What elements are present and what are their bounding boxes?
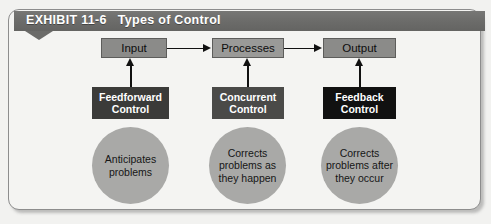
control-label-line1: Feedback <box>335 91 383 104</box>
outcome-line2: problems as <box>219 159 277 172</box>
control-label-line2: Control <box>220 103 277 116</box>
connector-processes-to-output <box>284 48 315 50</box>
outcome-line1: Anticipates <box>105 153 156 166</box>
control-label-line2: Control <box>99 103 162 116</box>
outcome-circle-feedback-text: Corrects problems after they occur <box>326 147 393 185</box>
outcome-line1: Corrects <box>219 147 277 160</box>
outcome-circle-concurrent: Corrects problems as they happen <box>209 127 286 204</box>
control-label-line2: Control <box>335 103 383 116</box>
connector-input-to-processes <box>167 48 204 50</box>
banner-chevron-icon <box>25 31 53 40</box>
outcome-line3: they happen <box>219 172 277 185</box>
exhibit-number: EXHIBIT 11-6 <box>26 13 107 27</box>
outcome-circle-feedforward: Anticipates problems <box>92 127 169 204</box>
arrowhead-input-to-processes-icon <box>203 44 211 52</box>
arrowhead-feedback-to-output-icon <box>355 58 363 66</box>
stage-label-input: Input <box>121 42 147 54</box>
control-label-line1: Feedforward <box>99 91 162 104</box>
connector-feedback-to-output <box>359 66 361 87</box>
control-label-line1: Concurrent <box>220 91 277 104</box>
arrowhead-processes-to-output-icon <box>314 44 322 52</box>
arrowhead-concurrent-to-processes-icon <box>243 58 251 66</box>
control-box-feedback: Feedback Control <box>323 87 396 119</box>
control-box-feedforward: Feedforward Control <box>92 87 169 119</box>
stage-box-processes: Processes <box>212 38 284 58</box>
stage-label-processes: Processes <box>221 42 275 54</box>
outcome-circle-feedforward-text: Anticipates problems <box>105 153 156 178</box>
outcome-circle-concurrent-text: Corrects problems as they happen <box>219 147 277 185</box>
stage-box-input: Input <box>101 38 167 58</box>
outcome-line2: problems <box>105 166 156 179</box>
control-box-feedback-text: Feedback Control <box>335 91 383 116</box>
connector-concurrent-to-processes <box>247 66 249 87</box>
arrowhead-feedforward-to-input-icon <box>126 58 134 66</box>
outcome-line2: problems after <box>326 159 393 172</box>
control-box-feedforward-text: Feedforward Control <box>99 91 162 116</box>
outcome-line3: they occur <box>326 172 393 185</box>
scan-background: EXHIBIT 11-6Types of Control Input Proce… <box>0 0 491 224</box>
exhibit-title: Types of Control <box>118 13 221 27</box>
control-box-concurrent-text: Concurrent Control <box>220 91 277 116</box>
exhibit-banner-text: EXHIBIT 11-6Types of Control <box>26 13 221 27</box>
stage-label-output: Output <box>342 42 377 54</box>
control-box-concurrent: Concurrent Control <box>212 87 284 119</box>
stage-box-output: Output <box>323 38 396 58</box>
outcome-circle-feedback: Corrects problems after they occur <box>321 127 398 204</box>
connector-feedforward-to-input <box>130 66 132 87</box>
outcome-line1: Corrects <box>326 147 393 160</box>
exhibit-banner: EXHIBIT 11-6Types of Control <box>14 11 485 31</box>
